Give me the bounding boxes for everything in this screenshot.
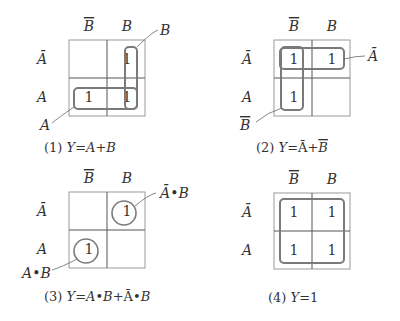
map-4: BBĀA1111(4) Y=1 [240, 171, 350, 305]
column-header: B [288, 18, 299, 34]
group-label: Ā [366, 47, 378, 64]
column-header: B [326, 18, 337, 34]
column-header: B [326, 171, 337, 187]
row-header: A [240, 89, 252, 105]
group-label: A•B [20, 265, 51, 281]
map-caption: (3) Y=A•B+Ā•B [44, 289, 150, 304]
cell-value: 1 [290, 51, 299, 67]
leader-line [344, 56, 365, 59]
map-2: BBĀA111ĀB(2) Y=Ā+B [239, 18, 378, 155]
cell-value: 1 [123, 203, 132, 219]
column-header: B [121, 170, 132, 186]
row-header: Ā [240, 50, 252, 67]
cell-value: 1 [290, 242, 299, 258]
group-label: B [239, 117, 250, 133]
row-header: A [240, 242, 252, 258]
karnaugh-map-figure: BBĀA111BA(1) Y=A+BBBĀA111ĀB(2) Y=Ā+BBBĀA… [0, 0, 400, 321]
cell-value: 1 [85, 241, 94, 257]
leader-line [256, 108, 282, 122]
map-1: BBĀA111BA(1) Y=A+B [35, 18, 170, 155]
group-label: A [38, 117, 50, 133]
column-header: B [121, 18, 132, 34]
row-header: Ā [35, 202, 47, 219]
row-header: A [35, 89, 47, 105]
cell-value: 1 [290, 204, 299, 220]
cell-value: 1 [123, 89, 132, 105]
row-header: Ā [35, 50, 47, 67]
leader-line [52, 107, 74, 123]
map-caption: (2) Y=Ā+B [256, 140, 328, 155]
group-label: B [159, 22, 170, 38]
map-caption: (4) Y=1 [268, 290, 318, 305]
column-header: B [83, 170, 94, 186]
cell-value: 1 [328, 242, 337, 258]
row-header: Ā [240, 203, 252, 220]
cell-value: 1 [123, 51, 132, 67]
cell-value: 1 [328, 204, 337, 220]
cell-value: 1 [85, 89, 94, 105]
row-header: A [35, 241, 47, 257]
cell-value: 1 [328, 51, 337, 67]
map-caption: (1) Y=A+B [44, 140, 116, 155]
map-3: BBĀA11Ā•BA•B(3) Y=A•B+Ā•B [20, 170, 189, 304]
karnaugh-maps-svg: BBĀA111BA(1) Y=A+BBBĀA111ĀB(2) Y=Ā+BBBĀA… [0, 0, 400, 321]
group-label: Ā•B [158, 184, 189, 201]
column-header: B [83, 18, 94, 34]
cell-value: 1 [290, 89, 299, 105]
column-header: B [288, 171, 299, 187]
leader-line [137, 30, 158, 47]
